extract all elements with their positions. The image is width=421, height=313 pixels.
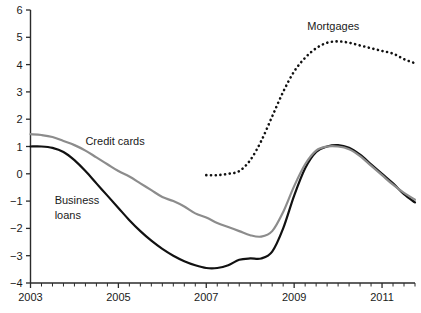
series-label: loans	[55, 209, 82, 221]
y-tick-label: −3	[10, 250, 23, 262]
x-axis-tick-labels: 20032005200720092011	[18, 291, 394, 303]
y-tick-label: −2	[10, 222, 23, 234]
y-tick-label: −1	[10, 195, 23, 207]
series-annotations: MortgagesCredit cardsBusinessloans	[55, 20, 360, 220]
x-tick-label: 2007	[194, 291, 218, 303]
x-axis-ticks	[31, 283, 416, 288]
series-label: Mortgages	[307, 20, 359, 32]
chart-container: 6543210−1−2−3−4 20032005200720092011 Mor…	[0, 0, 421, 313]
x-tick-label: 2005	[106, 291, 130, 303]
x-tick-label: 2011	[370, 291, 394, 303]
y-tick-label: 1	[16, 141, 22, 153]
x-tick-label: 2009	[282, 291, 306, 303]
y-tick-label: 2	[16, 113, 22, 125]
series-lines	[31, 41, 416, 268]
y-tick-label: −4	[10, 277, 23, 289]
line-chart: 6543210−1−2−3−4 20032005200720092011 Mor…	[0, 0, 421, 313]
series-line-business-loans	[31, 145, 416, 268]
x-tick-label: 2003	[18, 291, 42, 303]
y-tick-label: 6	[16, 4, 22, 16]
series-line-credit-cards	[31, 134, 416, 237]
y-axis-tick-labels: 6543210−1−2−3−4	[10, 4, 23, 289]
y-tick-label: 5	[16, 31, 22, 43]
y-tick-label: 4	[16, 59, 22, 71]
series-label: Business	[55, 194, 100, 206]
y-tick-label: 3	[16, 86, 22, 98]
y-tick-label: 0	[16, 168, 22, 180]
series-label: Credit cards	[85, 135, 145, 147]
